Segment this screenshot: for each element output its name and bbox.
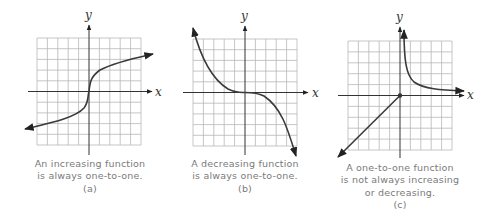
panel-c-graph xyxy=(338,27,464,158)
x-label-b: x xyxy=(312,86,319,100)
caption-c: A one-to-one function is not always incr… xyxy=(330,162,470,211)
caption-a-tag: (a) xyxy=(20,183,160,195)
caption-a: An increasing function is always one-to-… xyxy=(20,158,160,195)
caption-a-line-1: An increasing function xyxy=(20,158,160,170)
caption-c-line-1: A one-to-one function xyxy=(330,162,470,174)
caption-b-line-2: is always one-to-one. xyxy=(175,170,315,182)
y-label-b: y xyxy=(240,9,248,23)
y-label-a: y xyxy=(84,8,92,22)
caption-c-line-3: or decreasing. xyxy=(330,187,470,199)
x-label-a: x xyxy=(155,85,162,99)
caption-a-line-2: is always one-to-one. xyxy=(20,170,160,182)
panel-b-graph xyxy=(183,26,308,156)
origin-point xyxy=(398,93,402,97)
caption-c-tag: (c) xyxy=(330,199,470,211)
y-label-c: y xyxy=(395,10,403,24)
x-label-c: x xyxy=(467,88,474,102)
caption-c-line-2: is not always increasing xyxy=(330,174,470,186)
caption-b-tag: (b) xyxy=(175,183,315,195)
caption-b-line-1: A decreasing function xyxy=(175,158,315,170)
caption-b: A decreasing function is always one-to-o… xyxy=(175,158,315,195)
hyperbola-branch xyxy=(404,30,464,91)
panel-a-graph xyxy=(25,25,153,155)
